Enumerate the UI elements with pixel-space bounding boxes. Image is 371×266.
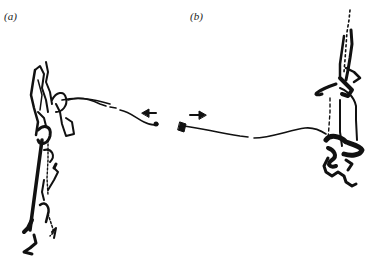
panel-b-trace [316, 10, 362, 186]
arrow-left-icon [142, 109, 156, 117]
arrow-right-icon [190, 111, 206, 119]
figure: (a) (b) [0, 0, 371, 266]
panel-a-trace [24, 62, 110, 254]
track-drawing [0, 0, 371, 266]
panel-b-trail [184, 126, 326, 138]
